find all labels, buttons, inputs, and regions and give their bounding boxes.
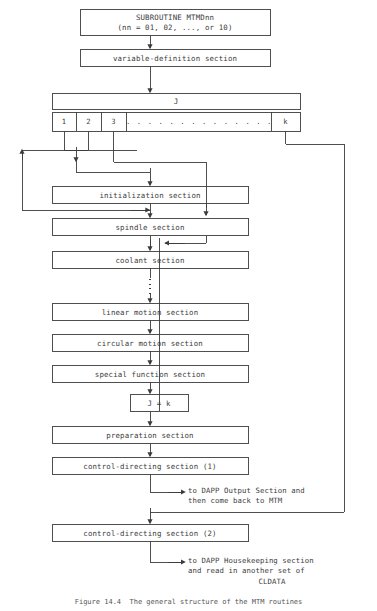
branch-cell-k (286, 131, 345, 144)
j-cell-ellipsis: . . . . . . . . . . . . . . (126, 117, 271, 126)
box-control-directing-1 (52, 457, 248, 474)
left-loop-path (22, 150, 137, 210)
annotation-dapp-housekeeping-line2: and read in another set of (188, 566, 305, 575)
box-spindle (52, 218, 248, 235)
flowchart-connectors (0, 0, 377, 611)
box-control-directing-2 (52, 524, 248, 541)
j-cell-3[interactable]: 3 (101, 117, 126, 126)
branch-cell-3 (114, 131, 207, 162)
box-circular-motion (52, 334, 248, 351)
annotation-dapp-housekeeping: to DAPP Housekeeping section and read in… (188, 556, 373, 576)
flowchart-diagram: SUBROUTINE MTMDnn (nn = 01, 02, ..., or … (0, 0, 377, 611)
figure-caption: Figure 14.4 The general structure of the… (0, 598, 377, 607)
box-initialization (52, 186, 248, 203)
box-coolant (52, 251, 248, 268)
branch-merge-to-init (76, 158, 150, 172)
j-cell-1[interactable]: 1 (52, 117, 76, 126)
box-special-function (52, 365, 248, 382)
annotation-dapp-output-line2: then come back to MTM (188, 496, 282, 505)
cd2-exit-path (150, 541, 182, 562)
annotation-dapp-housekeeping-line3: CLDATA (188, 577, 356, 587)
j-cell-2[interactable]: 2 (76, 117, 101, 126)
box-preparation (52, 426, 248, 443)
box-subroutine (80, 9, 270, 35)
box-linear-motion (52, 303, 248, 320)
right-return-to-coolant (165, 236, 206, 243)
annotation-dapp-output: to DAPP Output Section and then come bac… (188, 486, 368, 506)
cd1-exit-path (150, 474, 182, 492)
annotation-dapp-output-line1: to DAPP Output Section and (188, 486, 305, 495)
annotation-dapp-housekeeping-line1: to DAPP Housekeeping section (188, 556, 314, 565)
box-variable-definition (80, 49, 270, 66)
j-cell-k[interactable]: k (271, 117, 300, 126)
box-j-header (52, 93, 300, 109)
